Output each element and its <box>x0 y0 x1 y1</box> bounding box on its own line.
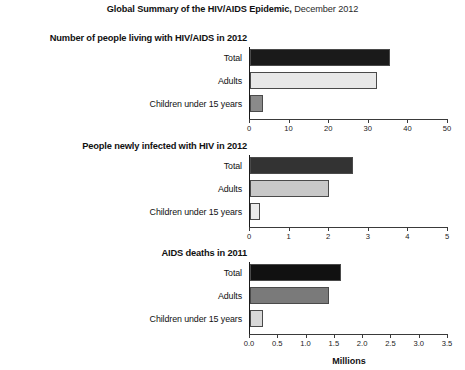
bar-row <box>250 287 448 304</box>
bar-total <box>250 49 390 66</box>
x-tick <box>289 119 290 123</box>
category-label: Total <box>0 161 242 171</box>
x-tick <box>306 334 307 338</box>
bar-row <box>250 264 448 281</box>
x-tick <box>328 227 329 231</box>
category-label: Children under 15 years <box>0 99 242 109</box>
x-tick-label: 0.5 <box>272 339 283 348</box>
bar-total <box>250 157 353 174</box>
x-tick-label: 0 <box>247 124 251 133</box>
x-tick-label: 50 <box>443 124 451 133</box>
bar-children-under-15-years <box>250 310 263 327</box>
bar-row <box>250 95 448 112</box>
x-tick <box>407 119 408 123</box>
plot-area: 01020304050 <box>249 47 447 119</box>
category-label: Adults <box>0 291 242 301</box>
bar-children-under-15-years <box>250 203 260 220</box>
bar-children-under-15-years <box>250 95 263 112</box>
x-tick <box>249 334 250 338</box>
x-tick <box>390 334 391 338</box>
x-tick-label: 2 <box>326 232 330 241</box>
x-tick-label: 10 <box>284 124 292 133</box>
category-label: Total <box>0 53 242 63</box>
x-tick-label: 30 <box>364 124 372 133</box>
panel-title: AIDS deaths in 2011 <box>0 248 247 258</box>
x-tick <box>362 334 363 338</box>
x-axis-title: Millions <box>249 356 449 366</box>
x-tick <box>419 334 420 338</box>
x-tick-label: 40 <box>403 124 411 133</box>
x-tick-label: 20 <box>324 124 332 133</box>
page-title: Global Summary of the HIV/AIDS Epidemic,… <box>0 4 465 14</box>
bar-row <box>250 72 448 89</box>
bar-adults <box>250 72 377 89</box>
bar-row <box>250 180 448 197</box>
bar-row <box>250 310 448 327</box>
x-tick <box>447 334 448 338</box>
category-label: Children under 15 years <box>0 314 242 324</box>
plot-area: 0.00.51.01.52.02.53.03.5 <box>249 262 447 334</box>
x-tick <box>249 227 250 231</box>
bar-adults <box>250 180 329 197</box>
panel-title: People newly infected with HIV in 2012 <box>0 141 247 151</box>
plot-area: 012345 <box>249 155 447 227</box>
x-axis-line <box>249 227 447 228</box>
x-tick <box>289 227 290 231</box>
x-tick-label: 4 <box>405 232 409 241</box>
x-tick <box>447 119 448 123</box>
x-tick <box>328 119 329 123</box>
x-tick <box>368 119 369 123</box>
bar-row <box>250 157 448 174</box>
bar-adults <box>250 287 329 304</box>
page-title-date: December 2012 <box>292 4 359 14</box>
x-tick-label: 3.5 <box>442 339 453 348</box>
x-tick-label: 2.5 <box>385 339 396 348</box>
x-tick-label: 0 <box>247 232 251 241</box>
x-tick <box>368 227 369 231</box>
x-tick-label: 1.0 <box>300 339 311 348</box>
x-axis-line <box>249 119 447 120</box>
category-label: Adults <box>0 76 242 86</box>
bar-row <box>250 49 448 66</box>
category-label: Adults <box>0 184 242 194</box>
x-tick <box>277 334 278 338</box>
x-tick-label: 3.0 <box>413 339 424 348</box>
category-label: Total <box>0 268 242 278</box>
page-title-bold: Global Summary of the HIV/AIDS Epidemic, <box>107 4 292 14</box>
x-tick-label: 1.5 <box>329 339 340 348</box>
x-tick-label: 5 <box>445 232 449 241</box>
x-tick-label: 3 <box>366 232 370 241</box>
category-label: Children under 15 years <box>0 207 242 217</box>
bar-row <box>250 203 448 220</box>
x-axis-line <box>249 334 447 335</box>
bar-total <box>250 264 341 281</box>
x-tick <box>407 227 408 231</box>
x-tick-label: 1 <box>286 232 290 241</box>
x-tick <box>249 119 250 123</box>
x-tick <box>447 227 448 231</box>
panel-title: Number of people living with HIV/AIDS in… <box>0 33 247 43</box>
x-tick-label: 0.0 <box>244 339 255 348</box>
x-tick-label: 2.0 <box>357 339 368 348</box>
x-tick <box>334 334 335 338</box>
